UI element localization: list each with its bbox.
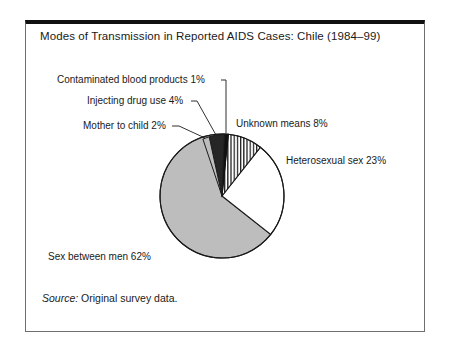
pie-label-injecting-drug-use: Injecting drug use 4% bbox=[87, 95, 183, 106]
pie-label-heterosexual-sex: Heterosexual sex 23% bbox=[286, 155, 386, 166]
source-label: Source: bbox=[42, 292, 78, 304]
source-value: Original survey data. bbox=[78, 292, 177, 304]
pie-label-unknown-means: Unknown means 8% bbox=[236, 118, 328, 129]
pie-label-contaminated-blood: Contaminated blood products 1% bbox=[57, 74, 205, 85]
figure-page: Modes of Transmission in Reported AIDS C… bbox=[0, 0, 451, 350]
pie-label-mother-to-child: Mother to child 2% bbox=[83, 120, 166, 131]
source-note: Source: Original survey data. bbox=[42, 292, 177, 304]
pie-label-sex-between-men: Sex between men 62% bbox=[48, 251, 151, 262]
